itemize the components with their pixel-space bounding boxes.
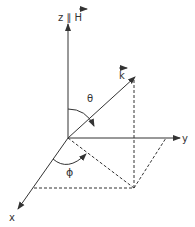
k-vector-label: k [119, 70, 125, 81]
z-axis-label: z ∥ H [58, 12, 82, 24]
x-axis-label: x [9, 212, 15, 223]
theta-label: θ [87, 93, 93, 104]
k-vector [68, 77, 135, 138]
phi-arc [53, 154, 86, 164]
y-axis-label: y [182, 133, 188, 144]
projection-lines [34, 80, 166, 188]
phi-label: ϕ [66, 166, 73, 179]
coordinate-diagram: z ∥ H k θ ϕ y x [0, 0, 195, 227]
x-axis [18, 138, 68, 209]
